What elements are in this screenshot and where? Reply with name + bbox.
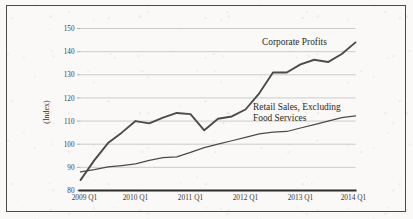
y-tick-label-130: 130 (64, 71, 75, 79)
chart-plot-area: 8090100110120130140150 2009 Q12010 Q1201… (0, 0, 413, 219)
y-axis-title: (Index) (42, 100, 51, 124)
series-label-retail-sales-line2: Food Services (253, 113, 307, 123)
series-label-retail-sales-line1: Retail Sales, Excluding (253, 102, 341, 112)
series-label-corporate-profits: Corporate Profits (262, 37, 327, 47)
x-axis-tick-labels: 2009 Q12010 Q12011 Q12012 Q12013 Q12014 … (72, 193, 367, 202)
y-tick-label-110: 110 (64, 118, 75, 126)
y-axis-tick-labels: 8090100110120130140150 (64, 25, 75, 195)
y-tick-marks-group (77, 29, 81, 191)
x-tick-label-2013-q1: 2013 Q1 (288, 193, 314, 202)
x-tick-label-2012-q1: 2012 Q1 (233, 193, 259, 202)
x-tick-label-2011-q1: 2011 Q1 (178, 193, 204, 202)
gridlines-group (81, 29, 356, 168)
y-tick-label-90: 90 (67, 164, 75, 172)
x-tick-label-2009-q1: 2009 Q1 (72, 193, 98, 202)
y-tick-label-150: 150 (64, 25, 75, 33)
y-tick-label-140: 140 (64, 48, 75, 56)
y-tick-label-120: 120 (64, 95, 75, 103)
x-tick-label-2010-q1: 2010 Q1 (123, 193, 149, 202)
x-tick-label-2014-q1: 2014 Q1 (341, 193, 367, 202)
chart-figure: 8090100110120130140150 2009 Q12010 Q1201… (0, 0, 413, 219)
y-tick-label-100: 100 (64, 141, 75, 149)
